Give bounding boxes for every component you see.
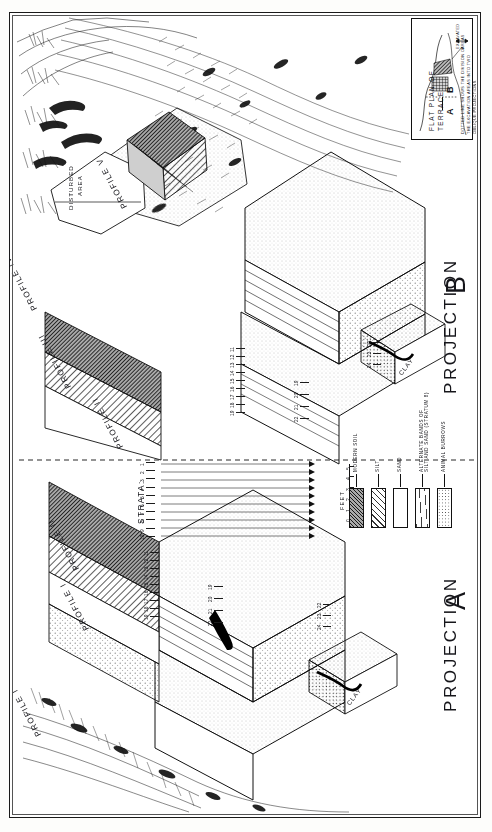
- legend-swatch-3: [415, 488, 430, 528]
- strata-number-11: 11: [144, 551, 149, 556]
- strata-leader-13: [150, 568, 159, 569]
- strata-leader-18: [150, 608, 159, 609]
- strata-number-20: 20: [208, 597, 213, 602]
- strata-number-4: 4: [140, 488, 145, 491]
- strata-leader-24: [323, 626, 331, 627]
- legend-leader-1: [378, 474, 379, 487]
- legend-leader-0: [356, 474, 357, 487]
- strata-number-12: 12: [144, 559, 149, 564]
- strata-leader-22: [323, 604, 331, 605]
- strata-leader-13: [236, 364, 245, 365]
- strata-number-15: 15: [144, 583, 149, 588]
- strata-leader-19: [300, 382, 309, 383]
- legend-label-0: MODERN SOIL: [353, 433, 358, 472]
- strata-number-24: 24: [367, 363, 372, 368]
- strata-number-13: 13: [144, 567, 149, 572]
- strata-number-19: 19: [230, 411, 235, 416]
- legend-label-1: SILT: [375, 460, 380, 472]
- strata-number-14: 14: [230, 371, 235, 376]
- strata-leader-23: [323, 615, 331, 616]
- strata-leader-16: [236, 388, 245, 389]
- strata-number-18: 18: [230, 403, 235, 408]
- strata-leader-22: [214, 622, 223, 623]
- legend-leader-4: [444, 474, 445, 487]
- strata-number-1: 1: [140, 463, 145, 466]
- strata-leader-20: [214, 598, 223, 599]
- disturbed-area-label-line2: AREA: [76, 175, 83, 196]
- legend-label-2: SAND: [397, 457, 402, 472]
- strata-number-9: 9: [140, 529, 145, 532]
- strata-number-23: 23: [367, 352, 372, 357]
- strata-number-19: 19: [294, 381, 299, 386]
- strata-label: STRATA:: [137, 480, 146, 524]
- strata-number-6: 6: [140, 504, 145, 507]
- strata-leader-9: [146, 528, 155, 529]
- strata-leader-4: [146, 487, 155, 488]
- strata-number-13: 13: [230, 363, 235, 368]
- strata-leader-20: [300, 394, 309, 395]
- strata-leader-19: [236, 412, 245, 413]
- strata-number-8: 8: [140, 521, 145, 524]
- strata-number-16: 16: [144, 591, 149, 596]
- strata-leader-10: [146, 536, 155, 537]
- strata-number-15: 15: [230, 379, 235, 384]
- strata-leader-18: [236, 404, 245, 405]
- strata-number-16: 16: [230, 387, 235, 392]
- legend-leader-2: [400, 474, 401, 487]
- inset-caption-line1: DOTTED LINE SHOWS THE DIVISION OF: [460, 46, 465, 134]
- legend: MODERN SOILSILTSANDALTERNATE BANDS OFSIL…: [349, 458, 469, 538]
- strata-leader-5: [146, 495, 155, 496]
- strata-number-11: 11: [230, 347, 235, 352]
- strata-leader-21: [300, 406, 309, 407]
- strata-number-3: 3: [140, 480, 145, 483]
- flat-plan-title-line2: TERRACE: [437, 91, 444, 131]
- strata-number-19: 19: [208, 585, 213, 590]
- strata-leader-1: [146, 462, 155, 463]
- strata-number-10: 10: [140, 534, 145, 539]
- strata-leader-22: [373, 342, 381, 343]
- inset-caption-line3: OBLIQUE PROJECTIONS: [472, 80, 477, 134]
- drawing-stage: PROJECTION A PROJECTION B STRATA: DISTUR…: [9, 12, 481, 818]
- strata-leader-12: [236, 356, 245, 357]
- strata-number-17: 17: [144, 599, 149, 604]
- legend-swatch-4: [437, 488, 452, 528]
- legend-label-4: ANIMAL BURROWS: [441, 421, 446, 472]
- strata-number-20: 20: [294, 393, 299, 398]
- strata-leader-12: [150, 560, 159, 561]
- strata-number-12: 12: [230, 355, 235, 360]
- projection-a-letter: A: [441, 591, 472, 610]
- strata-leader-8: [146, 519, 155, 520]
- strata-number-19: 19: [144, 615, 149, 620]
- strata-leader-22: [300, 418, 309, 419]
- strata-number-22: 22: [317, 603, 322, 608]
- strata-leader-19: [150, 616, 159, 617]
- strata-leader-15: [150, 584, 159, 585]
- legend-swatch-0: [349, 488, 364, 528]
- legend-leader-3: [422, 474, 423, 487]
- inset-divider-dotted-mark: [442, 97, 443, 110]
- strata-leader-16: [150, 592, 159, 593]
- strata-leader-11: [236, 348, 245, 349]
- strata-leader-6: [146, 503, 155, 504]
- strata-number-22: 22: [294, 417, 299, 422]
- strata-number-17: 17: [230, 395, 235, 400]
- strata-number-5: 5: [140, 496, 145, 499]
- strata-leader-14: [236, 372, 245, 373]
- strata-leader-23: [373, 353, 381, 354]
- strata-number-14: 14: [144, 575, 149, 580]
- strata-leader-17: [150, 600, 159, 601]
- inset-divider-letter-a: A: [445, 107, 455, 115]
- strata-leader-3: [146, 478, 155, 479]
- strata-leader-19: [214, 586, 223, 587]
- projection-b-letter: B: [441, 275, 472, 294]
- strata-leader-14: [150, 576, 159, 577]
- strata-number-22: 22: [367, 341, 372, 346]
- strata-number-23: 23: [317, 614, 322, 619]
- scale-unit-label: FEET: [339, 491, 345, 510]
- strata-leader-2: [146, 470, 155, 471]
- strata-leader-21: [214, 610, 223, 611]
- inset-caption-line2: THE EXCAVATION AREAS INTO TWO: [466, 55, 471, 134]
- strata-number-21: 21: [294, 405, 299, 410]
- strata-number-22: 22: [208, 621, 213, 626]
- legend-swatch-1: [371, 488, 386, 528]
